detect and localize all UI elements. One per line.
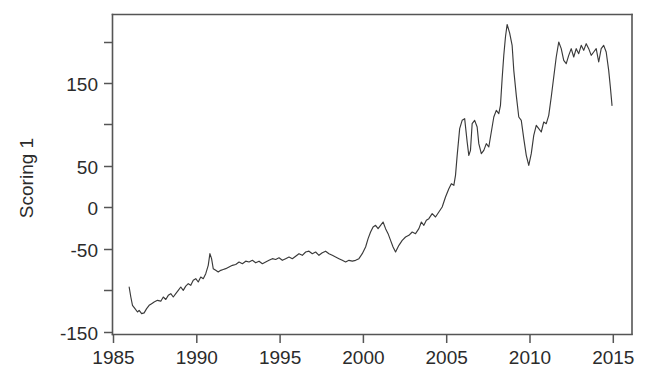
y-tick-label-150: 150 (66, 74, 98, 95)
x-tick-label-1995: 1995 (259, 347, 301, 368)
x-tick-label-1990: 1990 (176, 347, 218, 368)
chart-figure: 150 50 0 -50 -150 1985 1990 1995 2000 20… (0, 0, 660, 391)
y-tick-label-neg50: -50 (71, 240, 98, 261)
x-tick-label-2005: 2005 (426, 347, 468, 368)
y-tick-label-0: 0 (87, 198, 98, 219)
x-tick-label-2015: 2015 (592, 347, 634, 368)
plot-frame (113, 15, 633, 335)
x-axis-ticks (114, 335, 614, 344)
x-tick-label-2010: 2010 (509, 347, 551, 368)
y-axis-ticks (104, 43, 113, 333)
y-axis-tick-labels: 150 50 0 -50 -150 (60, 74, 98, 344)
x-axis-tick-labels: 1985 1990 1995 2000 2005 2010 2015 (92, 347, 634, 368)
x-tick-label-1985: 1985 (92, 347, 134, 368)
y-tick-label-50: 50 (77, 157, 98, 178)
line-chart-canvas: 150 50 0 -50 -150 1985 1990 1995 2000 20… (0, 0, 660, 391)
data-series-line-scoring-1 (129, 25, 612, 314)
y-axis-title: Scoring 1 (16, 138, 37, 218)
x-tick-label-2000: 2000 (342, 347, 384, 368)
y-tick-label-neg150: -150 (60, 323, 98, 344)
